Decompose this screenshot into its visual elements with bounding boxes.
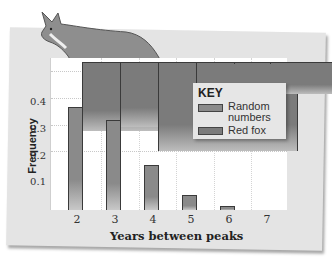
bar-random-4 [144, 165, 159, 210]
legend: KEY Random numbers Red fox [193, 83, 286, 139]
xtick: 6 [219, 213, 239, 226]
legend-title: KEY [198, 86, 223, 100]
xtick: 4 [143, 213, 163, 226]
xtick: 2 [67, 213, 87, 226]
legend-label-fox: Red fox [228, 125, 266, 136]
bar-random-3 [106, 120, 121, 210]
xtick: 5 [181, 213, 201, 226]
xtick: 7 [257, 213, 277, 226]
legend-label-random-2: numbers [228, 112, 271, 123]
bar-random-6 [220, 206, 235, 210]
legend-swatch-random [198, 104, 223, 112]
xtick: 3 [105, 213, 125, 226]
bar-fox-7 [270, 62, 332, 64]
x-axis-label: Years between peaks [110, 229, 243, 243]
bar-random-2 [68, 107, 83, 210]
y-axis-label: Frequency [26, 106, 38, 186]
legend-swatch-fox [198, 127, 223, 135]
bar-random-5 [182, 195, 197, 210]
